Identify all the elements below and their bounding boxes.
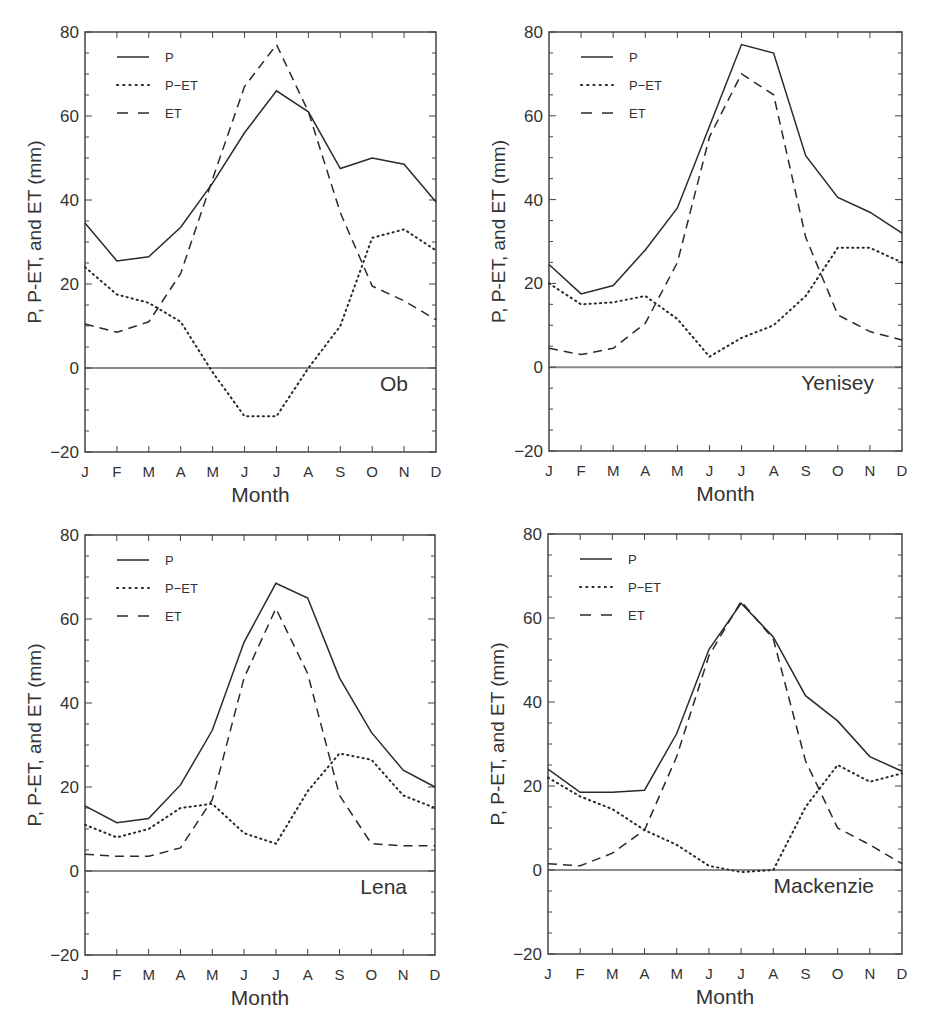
x-tick-label: J <box>81 463 89 480</box>
figure: 806040200−20JFMAMJJASONDMonthP, P-ET, an… <box>0 0 928 1034</box>
series-line-et <box>85 609 435 857</box>
x-tick-label: J <box>706 462 714 479</box>
x-tick-label: S <box>335 966 345 983</box>
x-tick-label: S <box>801 462 811 479</box>
legend-label-et: ET <box>165 609 182 624</box>
x-tick-label: N <box>398 966 409 983</box>
series-line-et <box>549 74 902 355</box>
x-tick-label: J <box>241 463 249 480</box>
x-tick-label: J <box>240 966 248 983</box>
x-tick-label: M <box>671 462 684 479</box>
legend-label-et: ET <box>165 106 182 121</box>
x-tick-label: J <box>705 965 713 982</box>
y-tick-label: 80 <box>60 526 79 545</box>
x-tick-label: F <box>112 463 121 480</box>
x-tick-label: A <box>640 462 650 479</box>
x-axis-label: Month <box>696 985 754 1008</box>
x-tick-label: S <box>800 965 810 982</box>
y-tick-label: 80 <box>60 23 79 42</box>
y-tick-label: 40 <box>524 191 543 210</box>
series-line-et <box>85 45 436 333</box>
x-tick-label: A <box>303 463 313 480</box>
x-tick-label: M <box>206 966 219 983</box>
y-axis-label: P, P-ET, and ET (mm) <box>24 140 45 323</box>
x-tick-label: J <box>738 462 746 479</box>
y-tick-label: 0 <box>533 861 542 880</box>
x-tick-label: J <box>544 965 552 982</box>
legend-label-pet: P−ET <box>629 78 662 93</box>
x-tick-label: D <box>897 462 908 479</box>
y-tick-label: −20 <box>513 945 542 964</box>
panel-lena: 806040200−20JFMAMJJASONDMonthP, P-ET, an… <box>24 526 441 1009</box>
y-tick-label: −20 <box>50 443 79 462</box>
y-tick-label: 40 <box>523 693 542 712</box>
x-tick-label: M <box>143 463 156 480</box>
x-tick-label: F <box>576 965 585 982</box>
panel-title: Mackenzie <box>774 874 874 897</box>
panel-title: Yenisey <box>801 371 874 394</box>
x-tick-label: J <box>545 462 553 479</box>
x-tick-label: A <box>769 462 779 479</box>
series-line-p <box>548 603 902 792</box>
y-tick-label: 20 <box>524 274 543 293</box>
x-tick-label: A <box>768 965 778 982</box>
x-tick-label: M <box>142 966 155 983</box>
panel-yenisey: 806040200−20JFMAMJJASONDMonthP, P-ET, an… <box>488 23 908 505</box>
legend-label-p: P <box>628 552 637 567</box>
x-tick-label: F <box>577 462 586 479</box>
y-tick-label: −20 <box>514 442 543 461</box>
panel-ob: 806040200−20JFMAMJJASONDMonthP, P-ET, an… <box>24 23 442 506</box>
legend-label-p: P <box>629 50 638 65</box>
series-line-pet <box>549 248 902 357</box>
legend-label-pet: P−ET <box>165 78 198 93</box>
x-tick-label: M <box>670 965 683 982</box>
x-tick-label: N <box>864 965 875 982</box>
y-axis-label: P, P-ET, and ET (mm) <box>24 643 45 826</box>
legend-label-p: P <box>165 50 174 65</box>
x-tick-label: O <box>832 965 844 982</box>
series-line-pet <box>85 753 435 843</box>
x-tick-label: S <box>335 463 345 480</box>
y-tick-label: 20 <box>60 778 79 797</box>
x-tick-label: D <box>897 965 908 982</box>
y-tick-label: −20 <box>50 946 79 965</box>
y-axis-label: P, P-ET, and ET (mm) <box>487 642 508 825</box>
x-axis-label: Month <box>231 483 289 506</box>
x-axis-label: Month <box>231 986 289 1009</box>
x-tick-label: A <box>640 965 650 982</box>
x-tick-label: M <box>206 463 219 480</box>
x-tick-label: J <box>81 966 89 983</box>
x-tick-label: F <box>112 966 121 983</box>
x-axis-label: Month <box>696 482 754 505</box>
y-tick-label: 20 <box>523 777 542 796</box>
y-axis-label: P, P-ET, and ET (mm) <box>488 140 509 323</box>
x-tick-label: A <box>175 966 185 983</box>
x-tick-label: A <box>176 463 186 480</box>
x-tick-label: D <box>431 463 442 480</box>
series-line-p <box>85 583 435 822</box>
legend-label-pet: P−ET <box>628 580 661 595</box>
x-tick-label: O <box>832 462 844 479</box>
y-tick-label: 60 <box>523 609 542 628</box>
legend-label-et: ET <box>629 106 646 121</box>
series-line-p <box>549 45 902 294</box>
x-tick-label: O <box>366 463 378 480</box>
y-tick-label: 20 <box>60 275 79 294</box>
y-tick-label: 40 <box>60 694 79 713</box>
y-tick-label: 0 <box>70 862 79 881</box>
panel-mackenzie: 806040200−20JFMAMJJASONDMonthP, P-ET, an… <box>487 525 908 1008</box>
x-tick-label: J <box>273 463 281 480</box>
x-tick-label: N <box>864 462 875 479</box>
panel-title: Lena <box>360 875 407 898</box>
y-tick-label: 0 <box>534 358 543 377</box>
y-tick-label: 60 <box>60 610 79 629</box>
y-tick-label: 80 <box>524 23 543 42</box>
x-tick-label: M <box>607 462 620 479</box>
y-tick-label: 0 <box>70 359 79 378</box>
panel-title: Ob <box>380 372 408 395</box>
y-tick-label: 60 <box>60 107 79 126</box>
legend-label-et: ET <box>628 608 645 623</box>
x-tick-label: D <box>430 966 441 983</box>
y-tick-label: 80 <box>523 525 542 544</box>
legend-label-pet: P−ET <box>165 581 198 596</box>
